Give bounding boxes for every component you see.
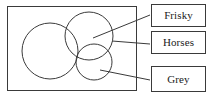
- large-circle: [22, 23, 78, 79]
- venn-diagram-figure: Frisky Horses Grey: [0, 0, 210, 102]
- label-box-grey: Grey: [151, 66, 206, 92]
- medium-circle: [65, 12, 113, 60]
- label-text-horses: Horses: [163, 37, 194, 48]
- leader-line-frisky: [93, 15, 150, 38]
- label-text-frisky: Frisky: [164, 10, 193, 21]
- label-box-frisky: Frisky: [151, 4, 206, 27]
- label-text-grey: Grey: [167, 74, 189, 85]
- label-box-horses: Horses: [151, 31, 206, 54]
- leader-line-horses: [112, 41, 150, 44]
- small-circle: [76, 44, 112, 80]
- leader-line-grey: [100, 70, 150, 80]
